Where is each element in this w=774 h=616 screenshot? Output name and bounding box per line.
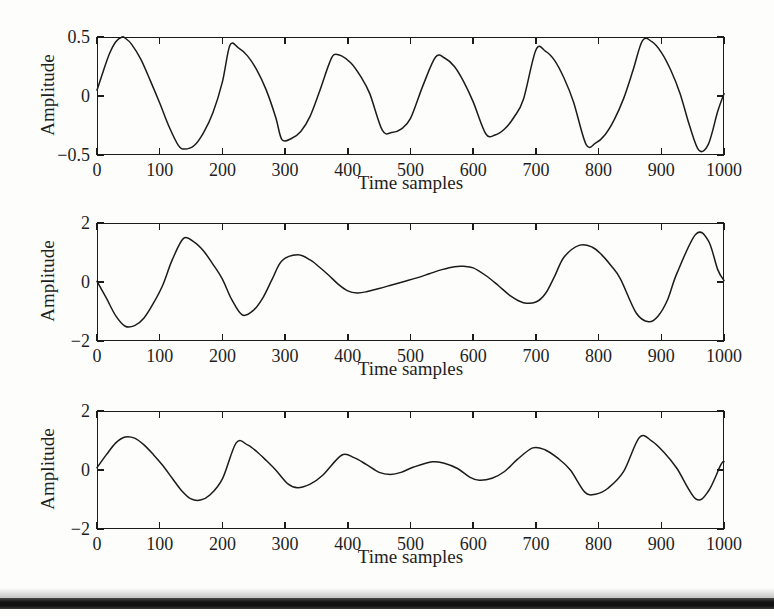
x-tick <box>661 148 663 155</box>
x-tick-label: 900 <box>648 535 675 553</box>
plot-area-middle <box>97 223 724 341</box>
signal-curve-bottom <box>97 411 724 529</box>
y-tick <box>717 36 724 38</box>
x-tick-label: 400 <box>334 347 361 365</box>
x-tick <box>347 411 349 418</box>
y-tick-label: 0 <box>40 273 90 291</box>
x-tick <box>222 411 224 418</box>
x-tick-label: 900 <box>648 347 675 365</box>
x-tick <box>159 148 161 155</box>
x-tick <box>535 223 537 230</box>
y-tick <box>717 95 724 97</box>
x-tick <box>410 411 412 418</box>
x-tick <box>159 411 161 418</box>
x-tick-label: 300 <box>272 161 299 179</box>
x-tick <box>723 223 725 230</box>
y-tick <box>97 469 104 471</box>
x-tick <box>535 522 537 529</box>
x-tick-label: 900 <box>648 161 675 179</box>
x-tick-label: 600 <box>460 161 487 179</box>
y-tick <box>717 281 724 283</box>
x-tick <box>472 411 474 418</box>
x-tick-label: 300 <box>272 535 299 553</box>
y-tick <box>717 154 724 156</box>
chart-panel-bottom: Amplitude Time samples 01002003004005006… <box>0 386 774 586</box>
y-tick <box>97 340 104 342</box>
x-tick <box>472 223 474 230</box>
x-tick <box>410 37 412 44</box>
x-tick-label: 100 <box>146 535 173 553</box>
x-tick-label: 400 <box>334 535 361 553</box>
chart-panel-top: Amplitude Time samples 01002003004005006… <box>0 0 774 200</box>
x-tick <box>472 37 474 44</box>
y-tick <box>97 154 104 156</box>
x-tick <box>222 334 224 341</box>
x-tick-label: 500 <box>397 347 424 365</box>
x-tick <box>347 37 349 44</box>
x-tick-label: 0 <box>93 161 102 179</box>
x-tick <box>723 411 725 418</box>
x-tick <box>284 37 286 44</box>
x-tick <box>222 522 224 529</box>
x-tick <box>661 411 663 418</box>
y-tick-label: 0 <box>40 87 90 105</box>
x-tick-label: 1000 <box>706 161 742 179</box>
x-tick-label: 700 <box>522 347 549 365</box>
x-tick-label: 600 <box>460 535 487 553</box>
x-tick <box>598 334 600 341</box>
x-tick <box>472 148 474 155</box>
x-tick <box>347 148 349 155</box>
x-tick-label: 1000 <box>706 347 742 365</box>
x-tick <box>723 37 725 44</box>
x-tick-label: 200 <box>209 347 236 365</box>
y-tick-label: 2 <box>40 214 90 232</box>
x-tick-label: 500 <box>397 161 424 179</box>
x-tick-label: 800 <box>585 347 612 365</box>
x-tick <box>661 522 663 529</box>
y-tick-label: 2 <box>40 402 90 420</box>
x-tick <box>96 223 98 230</box>
x-tick <box>535 37 537 44</box>
x-tick <box>410 522 412 529</box>
y-tick <box>97 222 104 224</box>
x-tick <box>472 522 474 529</box>
y-tick <box>97 95 104 97</box>
signal-curve-top <box>97 37 724 155</box>
x-tick <box>159 223 161 230</box>
x-tick <box>598 411 600 418</box>
x-tick <box>284 223 286 230</box>
x-tick-label: 0 <box>93 535 102 553</box>
x-tick <box>535 334 537 341</box>
y-tick <box>717 340 724 342</box>
x-tick <box>222 223 224 230</box>
x-tick <box>535 411 537 418</box>
y-tick <box>717 469 724 471</box>
x-tick-label: 1000 <box>706 535 742 553</box>
x-tick <box>598 37 600 44</box>
x-tick <box>222 37 224 44</box>
x-tick <box>347 522 349 529</box>
y-tick-label: 0.5 <box>40 28 90 46</box>
signal-curve-middle <box>97 223 724 341</box>
x-tick-label: 0 <box>93 347 102 365</box>
plot-area-bottom <box>97 411 724 529</box>
x-tick <box>598 223 600 230</box>
x-tick-label: 700 <box>522 161 549 179</box>
x-tick <box>159 37 161 44</box>
x-tick <box>159 334 161 341</box>
x-tick <box>661 223 663 230</box>
x-tick <box>96 37 98 44</box>
chart-panel-middle: Amplitude Time samples 01002003004005006… <box>0 196 774 394</box>
x-tick-label: 400 <box>334 161 361 179</box>
x-tick-label: 200 <box>209 535 236 553</box>
y-tick <box>717 222 724 224</box>
x-tick-label: 700 <box>522 535 549 553</box>
y-tick <box>97 36 104 38</box>
x-tick <box>347 223 349 230</box>
x-tick <box>535 148 537 155</box>
x-tick <box>347 334 349 341</box>
x-tick <box>159 522 161 529</box>
x-tick <box>598 522 600 529</box>
y-tick-label: −2 <box>40 520 90 538</box>
x-tick <box>284 334 286 341</box>
